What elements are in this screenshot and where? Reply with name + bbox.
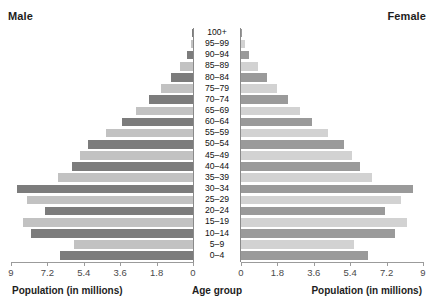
male-bar-row: [11, 173, 193, 183]
female-bar: [241, 207, 385, 216]
x-axis-line-left: [11, 262, 194, 263]
axis-tick-label-right-4: 7.2: [380, 267, 393, 278]
female-bar-row: [241, 240, 423, 250]
age-group-label: 60–64: [194, 117, 240, 127]
female-bar: [241, 251, 368, 260]
axis-tick-left-4: [157, 262, 158, 266]
age-group-label: 0–4: [194, 251, 240, 261]
male-bar-row: [11, 106, 193, 116]
female-bar: [241, 40, 245, 49]
female-bar: [241, 140, 344, 149]
male-bar: [80, 151, 193, 160]
axis-tick-right-2: [314, 262, 315, 266]
age-group-label: 90–94: [194, 50, 240, 60]
male-bar-row: [11, 184, 193, 194]
male-bar: [106, 129, 193, 138]
male-bar: [88, 140, 193, 149]
axis-tick-left-0: [11, 262, 12, 266]
age-group-label: 75–79: [194, 84, 240, 94]
female-bar-row: [241, 251, 423, 261]
female-bar: [241, 218, 407, 227]
axis-tick-left-2: [84, 262, 85, 266]
axis-tick-right-3: [350, 262, 351, 266]
female-bar-row: [241, 128, 423, 138]
age-group-label: 35–39: [194, 173, 240, 183]
female-bar-row: [241, 162, 423, 172]
female-bar-row: [241, 106, 423, 116]
female-bar: [241, 229, 395, 238]
male-bar-row: [11, 61, 193, 71]
x-axis-title-left: Population (in millions): [12, 285, 123, 296]
male-bar-row: [11, 84, 193, 94]
female-bar: [241, 62, 258, 71]
age-group-label: 10–14: [194, 229, 240, 239]
age-group-label: 45–49: [194, 151, 240, 161]
female-bar: [241, 173, 372, 182]
axis-tick-label-right-3: 5.4: [344, 267, 357, 278]
female-bar-row: [241, 139, 423, 149]
female-bar-row: [241, 39, 423, 49]
axis-tick-right-0: [241, 262, 242, 266]
axis-tick-right-4: [387, 262, 388, 266]
female-bar-row: [241, 173, 423, 183]
male-bar: [58, 173, 193, 182]
male-bar-row: [11, 229, 193, 239]
axis-tick-label-left-0: 9: [8, 267, 13, 278]
female-bar: [241, 129, 328, 138]
axis-tick-left-5: [193, 262, 194, 266]
female-bar: [241, 84, 277, 93]
female-bar-row: [241, 229, 423, 239]
male-bars-group: [11, 28, 193, 262]
female-bar: [241, 29, 242, 38]
age-group-label: 30–34: [194, 184, 240, 194]
female-bar-row: [241, 151, 423, 161]
female-bar: [241, 73, 267, 82]
male-bar: [74, 240, 193, 249]
male-bar-row: [11, 128, 193, 138]
male-bar: [161, 84, 193, 93]
female-bar-row: [241, 117, 423, 127]
male-bar: [72, 162, 193, 171]
male-bar-row: [11, 39, 193, 49]
female-bar: [241, 118, 312, 127]
age-group-label: 5–9: [194, 240, 240, 250]
axis-tick-label-left-3: 3.6: [114, 267, 127, 278]
female-bar-row: [241, 184, 423, 194]
male-bar-row: [11, 217, 193, 227]
age-group-label-column: 0–45–910–1415–1920–2425–2930–3435–3940–4…: [193, 28, 241, 262]
female-bars-group: [241, 28, 423, 262]
axis-tick-label-right-2: 3.6: [307, 267, 320, 278]
female-bar-row: [241, 195, 423, 205]
male-bar-row: [11, 251, 193, 261]
male-bar-row: [11, 28, 193, 38]
axis-tick-label-left-1: 7.2: [41, 267, 54, 278]
male-bar-row: [11, 206, 193, 216]
female-bar: [241, 95, 288, 104]
female-bar-row: [241, 73, 423, 83]
female-bar-row: [241, 50, 423, 60]
age-group-label: 40–44: [194, 162, 240, 172]
male-bar: [171, 73, 193, 82]
female-bar: [241, 240, 354, 249]
female-bar-row: [241, 95, 423, 105]
axis-tick-label-left-2: 5.4: [77, 267, 90, 278]
age-group-label: 100+: [194, 28, 240, 38]
age-group-label: 95–99: [194, 39, 240, 49]
age-group-label: 55–59: [194, 128, 240, 138]
axis-tick-label-left-4: 1.8: [150, 267, 163, 278]
female-bar-row: [241, 206, 423, 216]
male-bar: [23, 218, 193, 227]
male-bar-row: [11, 151, 193, 161]
male-bar-row: [11, 240, 193, 250]
male-bar-row: [11, 95, 193, 105]
x-axis-line-right: [241, 262, 424, 263]
age-group-label: 20–24: [194, 206, 240, 216]
female-bar: [241, 196, 401, 205]
age-group-label: 25–29: [194, 195, 240, 205]
y-axis-title-center: Age group: [192, 285, 242, 296]
female-bar: [241, 107, 300, 116]
male-bar: [149, 95, 193, 104]
age-group-label: 85–89: [194, 61, 240, 71]
age-group-label: 70–74: [194, 95, 240, 105]
male-bar: [60, 251, 193, 260]
